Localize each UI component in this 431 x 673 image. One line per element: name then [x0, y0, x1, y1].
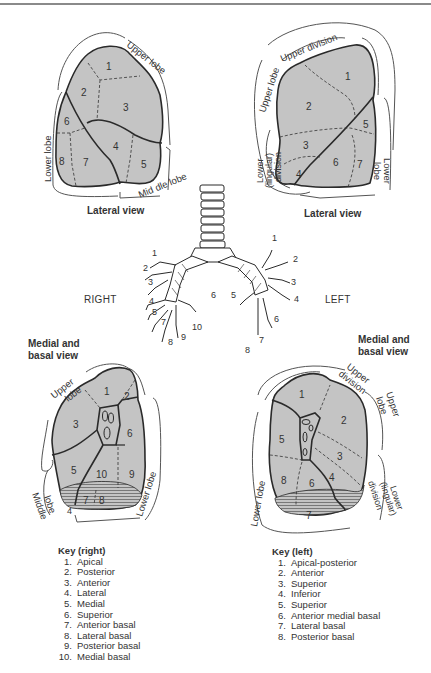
key-item: 10.Medial basal	[58, 652, 140, 663]
key-left: Key (left) 1.Apical-posterior 2.Anterior…	[272, 547, 380, 642]
svg-text:4: 4	[149, 296, 154, 306]
svg-text:4: 4	[67, 506, 72, 516]
left-medial-title-line1: Medial and	[358, 334, 410, 346]
svg-text:8: 8	[59, 156, 65, 167]
svg-text:8: 8	[281, 475, 287, 486]
svg-text:1: 1	[106, 61, 112, 72]
left-medial-view-title: Medial and basal view	[358, 334, 410, 358]
right-medial-title-line1: Medial and	[28, 338, 80, 350]
svg-text:10: 10	[192, 322, 202, 332]
svg-text:9: 9	[181, 332, 186, 342]
svg-text:3: 3	[291, 277, 296, 287]
right-lung-lateral: 1 2 3 4 5 6 7 8 Upper lobe Mid dle lobe …	[42, 33, 188, 200]
svg-text:2: 2	[143, 263, 148, 273]
svg-text:6: 6	[309, 478, 315, 489]
svg-text:lobe: lobe	[372, 162, 383, 180]
svg-text:5: 5	[231, 290, 236, 300]
svg-text:Lower lobe: Lower lobe	[248, 480, 267, 528]
svg-text:3: 3	[148, 277, 153, 287]
svg-text:7: 7	[161, 317, 166, 327]
svg-text:5: 5	[141, 159, 147, 170]
svg-text:4: 4	[294, 294, 299, 304]
svg-text:8: 8	[99, 495, 105, 506]
right-medial-title-line2: basal view	[28, 350, 80, 362]
svg-text:2: 2	[341, 415, 347, 426]
svg-text:7: 7	[259, 335, 264, 345]
svg-text:6: 6	[64, 116, 70, 127]
left-lung-lateral: 1 2 3 4 5 6 7 Upper division Upper lobe …	[254, 23, 395, 198]
svg-text:3: 3	[337, 451, 343, 462]
key-item: 1.Apical-posterior	[272, 558, 380, 569]
svg-text:1: 1	[152, 248, 157, 258]
svg-text:8: 8	[245, 345, 250, 355]
left-orientation-label: LEFT	[325, 294, 351, 305]
svg-text:3: 3	[123, 102, 129, 113]
svg-text:2: 2	[124, 391, 130, 402]
bronchial-tree: 1 2 3 4 5 6 7 8 9 10 1 2 3 4 5 6 7 8	[143, 185, 299, 355]
svg-text:3: 3	[303, 140, 309, 151]
svg-text:6: 6	[333, 157, 339, 168]
svg-text:6: 6	[211, 290, 216, 300]
svg-text:4: 4	[296, 169, 302, 180]
svg-text:5: 5	[363, 119, 369, 130]
svg-text:1: 1	[272, 233, 277, 243]
key-right: Key (right) 1.Apical 2.Posterior 3.Anter…	[58, 546, 140, 663]
right-medial-view-title: Medial and basal view	[28, 338, 80, 362]
svg-text:1: 1	[104, 386, 110, 397]
left-lateral-view-title: Lateral view	[304, 208, 361, 220]
svg-text:4: 4	[113, 141, 119, 152]
svg-text:6: 6	[274, 314, 279, 324]
svg-text:5: 5	[152, 307, 157, 317]
key-item: 8.Posterior basal	[272, 632, 380, 643]
svg-text:7: 7	[357, 159, 363, 170]
svg-text:7: 7	[83, 157, 89, 168]
svg-text:7: 7	[83, 495, 89, 506]
svg-text:2: 2	[306, 101, 312, 112]
svg-text:1: 1	[345, 71, 351, 82]
svg-text:division: division	[273, 152, 283, 182]
svg-text:10: 10	[96, 469, 108, 480]
svg-text:2: 2	[81, 87, 87, 98]
right-orientation-label: RIGHT	[84, 294, 117, 305]
svg-text:6: 6	[127, 428, 133, 439]
svg-text:9: 9	[129, 469, 135, 480]
svg-text:1: 1	[299, 389, 305, 400]
svg-text:8: 8	[168, 337, 173, 347]
right-lung-medial-basal: 1 2 3 4 5 6 7 8 9 10 Upper lobe Middle l…	[30, 364, 161, 522]
left-lung-medial-basal: 1 2 3 4 5 6 7 8 Upper division Upper lob…	[248, 361, 405, 533]
svg-text:3: 3	[73, 419, 79, 430]
svg-text:5: 5	[71, 465, 77, 476]
svg-text:4: 4	[329, 472, 335, 483]
svg-text:5: 5	[279, 434, 285, 445]
right-lateral-view-title: Lateral view	[87, 205, 144, 217]
svg-text:Lower lobe: Lower lobe	[42, 136, 53, 182]
key-item: 3.Superior	[272, 579, 380, 590]
left-medial-title-line2: basal view	[358, 346, 410, 358]
svg-text:7: 7	[306, 510, 312, 521]
svg-text:2: 2	[293, 254, 298, 264]
